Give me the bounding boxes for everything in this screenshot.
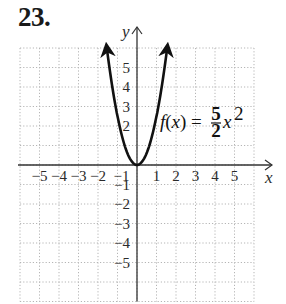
y-tick-label: −3	[114, 216, 130, 232]
y-tick-label: −5	[114, 255, 130, 271]
x-tick-label: −3	[71, 168, 87, 184]
x-tick-label: 4	[211, 168, 219, 184]
function-label: f(x) = 52x2	[160, 103, 244, 141]
y-axis-label: y	[120, 22, 130, 41]
x-tick-label: 2	[172, 168, 180, 184]
graph: xy −5−4−3−2−1123455432−1−2−3−4−5 f(x) = …	[0, 0, 286, 304]
y-tick-label: 4	[123, 79, 131, 95]
y-tick-label: −1	[114, 177, 130, 193]
svg-text:x: x	[222, 111, 232, 132]
y-tick-label: 2	[123, 118, 131, 134]
x-tick-label: −5	[32, 168, 48, 184]
y-tick-label: −2	[114, 196, 130, 212]
x-tick-label: −2	[90, 168, 106, 184]
svg-text:2: 2	[211, 120, 221, 141]
x-tick-label: −4	[51, 168, 67, 184]
x-axis-label: x	[264, 168, 273, 187]
svg-text:f(x) =: f(x) =	[160, 111, 202, 133]
x-tick-label: 1	[153, 168, 161, 184]
y-tick-label: 5	[123, 60, 131, 76]
y-tick-label: 3	[123, 99, 131, 115]
x-tick-label: 3	[192, 168, 200, 184]
svg-text:2: 2	[234, 103, 244, 124]
x-tick-label: 5	[231, 168, 239, 184]
y-tick-label: −4	[114, 235, 130, 251]
